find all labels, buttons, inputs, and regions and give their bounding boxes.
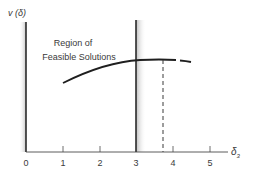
constraint-shading xyxy=(136,20,146,152)
region-label-line1: Region of xyxy=(54,38,93,48)
x-axis-label: δ3 xyxy=(231,146,241,159)
tick-label-4: 4 xyxy=(170,158,175,168)
objective-curve-tail xyxy=(180,61,191,63)
tick-label-5: 5 xyxy=(207,158,212,168)
tick-label-3: 3 xyxy=(133,158,138,168)
tick-label-2: 2 xyxy=(97,158,102,168)
x-tick-labels: 0 1 2 3 4 5 xyxy=(23,158,212,168)
chart-svg: v (δ) 0 1 2 3 4 5 δ3 Region of xyxy=(0,0,255,177)
objective-curve xyxy=(63,60,176,84)
y-axis-label: v (δ) xyxy=(8,8,26,18)
tick-label-0: 0 xyxy=(23,158,28,168)
y-axis-shading xyxy=(19,22,26,152)
chart: v (δ) 0 1 2 3 4 5 δ3 Region of xyxy=(0,0,255,177)
region-label-line2: Feasible Solutions xyxy=(42,52,116,62)
tick-label-1: 1 xyxy=(60,158,65,168)
